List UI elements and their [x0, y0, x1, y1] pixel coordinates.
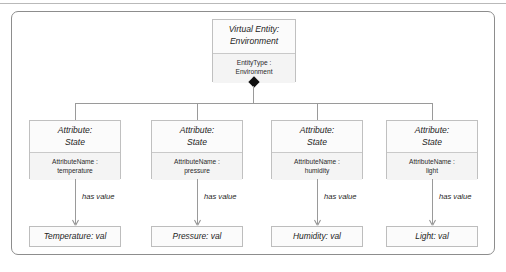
- node-header: Attribute: State: [387, 121, 477, 152]
- node-value-humidity[interactable]: Humidity: val: [271, 226, 363, 247]
- connector-has-value-3: [317, 179, 318, 224]
- node-header: Virtual Entity: Environment: [213, 20, 295, 53]
- node-attribute-humidity[interactable]: Attribute: State AttributeName : humidit…: [271, 120, 363, 179]
- connector-drop-1: [75, 103, 76, 120]
- value-label: Humidity: val: [272, 227, 362, 246]
- connector-root-stem: [253, 86, 254, 103]
- connector-has-value-4: [432, 179, 433, 224]
- node-attribute-pressure[interactable]: Attribute: State AttributeName : pressur…: [151, 120, 243, 179]
- value-label: Light: val: [387, 227, 477, 246]
- node-compartment: AttributeName : temperature: [30, 153, 120, 180]
- page-edge-rule: [0, 3, 506, 4]
- arrowhead-icon-4: [429, 220, 436, 225]
- edge-label-has-value-1: has value: [82, 192, 115, 202]
- node-attribute-light[interactable]: Attribute: State AttributeName : light: [386, 120, 478, 179]
- node-value-pressure[interactable]: Pressure: val: [151, 226, 243, 247]
- arrowhead-icon-2: [194, 220, 201, 225]
- connector-drop-2: [197, 103, 198, 120]
- node-value-temperature[interactable]: Temperature: val: [29, 226, 121, 247]
- node-header: Attribute: State: [152, 121, 242, 152]
- node-virtual-entity-environment[interactable]: Virtual Entity: Environment EntityType :…: [212, 19, 296, 82]
- node-header: Attribute: State: [30, 121, 120, 152]
- node-compartment: AttributeName : pressure: [152, 153, 242, 180]
- node-compartment: AttributeName : light: [387, 153, 477, 180]
- connector-has-value-1: [75, 179, 76, 224]
- diagram-canvas: Virtual Entity: Environment EntityType :…: [0, 0, 506, 272]
- connector-bus-horizontal: [75, 103, 433, 104]
- edge-label-has-value-4: has value: [439, 192, 472, 202]
- node-attribute-temperature[interactable]: Attribute: State AttributeName : tempera…: [29, 120, 121, 179]
- connector-has-value-2: [197, 179, 198, 224]
- node-value-light[interactable]: Light: val: [386, 226, 478, 247]
- edge-label-has-value-2: has value: [204, 192, 237, 202]
- node-compartment: AttributeName : humidity: [272, 153, 362, 180]
- connector-drop-3: [317, 103, 318, 120]
- connector-drop-4: [432, 103, 433, 120]
- value-label: Pressure: val: [152, 227, 242, 246]
- arrowhead-icon-3: [314, 220, 321, 225]
- node-header: Attribute: State: [272, 121, 362, 152]
- value-label: Temperature: val: [30, 227, 120, 246]
- edge-label-has-value-3: has value: [324, 192, 357, 202]
- arrowhead-icon-1: [72, 220, 79, 225]
